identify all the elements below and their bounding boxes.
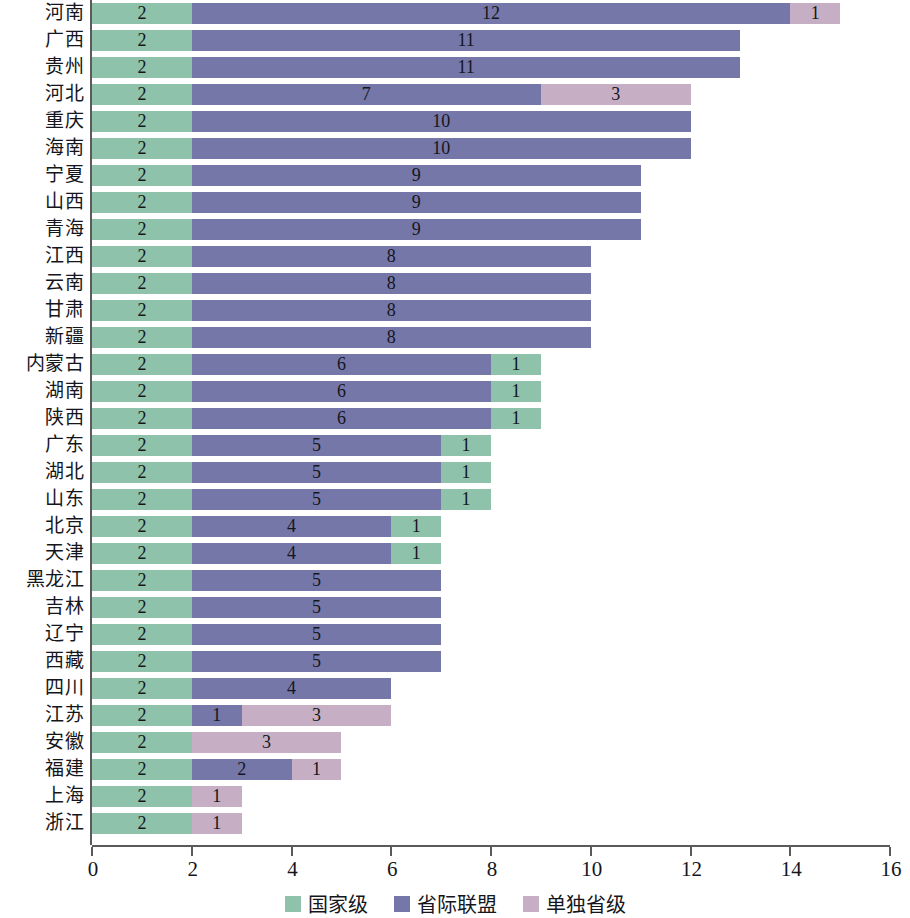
stacked-bar-chart: 河南2121广西211贵州211河北273重庆210海南210宁夏29山西29青… [0, 0, 910, 918]
x-axis-tick [789, 847, 791, 856]
x-axis-tick [191, 847, 193, 856]
bar-row: 云南28 [0, 270, 910, 297]
bar-segment: 1 [491, 354, 541, 375]
stacked-bar: 28 [92, 273, 591, 294]
bar-segment-value: 1 [412, 516, 421, 536]
legend-item[interactable]: 国家级 [285, 889, 368, 918]
x-axis-tick-label: 16 [871, 857, 910, 882]
bar-row: 黑龙江25 [0, 567, 910, 594]
bar-row: 广西211 [0, 27, 910, 54]
bar-segment-value: 2 [137, 300, 146, 320]
bar-segment: 8 [192, 327, 591, 348]
bar-segment-value: 11 [457, 57, 474, 77]
bar-segment-value: 2 [237, 759, 246, 779]
bar-segment: 8 [192, 273, 591, 294]
bar-segment-value: 1 [212, 705, 221, 725]
stacked-bar: 25 [92, 624, 441, 645]
bar-segment: 2 [92, 516, 192, 537]
bar-row-label: 黑龙江 [2, 567, 86, 594]
bar-segment: 2 [92, 651, 192, 672]
bar-segment: 5 [192, 570, 441, 591]
x-axis-tick-label: 6 [372, 857, 412, 882]
stacked-bar: 211 [92, 57, 740, 78]
bar-row-label: 安徽 [2, 729, 86, 756]
stacked-bar: 251 [92, 462, 491, 483]
x-axis-tick-label: 2 [173, 857, 213, 882]
stacked-bar: 211 [92, 30, 740, 51]
bar-segment: 2 [92, 597, 192, 618]
bar-segment-value: 2 [137, 462, 146, 482]
bar-segment: 4 [192, 543, 392, 564]
stacked-bar: 261 [92, 354, 541, 375]
bar-row: 吉林25 [0, 594, 910, 621]
bar-row-label: 青海 [2, 216, 86, 243]
bar-segment-value: 6 [337, 354, 346, 374]
bar-segment: 9 [192, 192, 641, 213]
bar-segment-value: 1 [212, 786, 221, 806]
stacked-bar: 29 [92, 192, 641, 213]
bar-segment: 2 [92, 3, 192, 24]
stacked-bar: 24 [92, 678, 391, 699]
bar-segment: 7 [192, 84, 541, 105]
bar-segment: 12 [192, 3, 791, 24]
x-axis-tick-label: 4 [273, 857, 313, 882]
bar-segment-value: 5 [312, 597, 321, 617]
bar-segment-value: 2 [137, 651, 146, 671]
bar-segment-value: 8 [387, 273, 396, 293]
stacked-bar: 25 [92, 597, 441, 618]
bar-segment: 2 [92, 57, 192, 78]
bar-segment: 1 [441, 462, 491, 483]
bar-segment: 2 [92, 300, 192, 321]
bar-segment: 10 [192, 111, 691, 132]
bar-segment: 2 [92, 111, 192, 132]
bar-segment-value: 5 [312, 570, 321, 590]
stacked-bar: 2121 [92, 3, 840, 24]
bar-segment: 5 [192, 435, 441, 456]
bar-row-label: 天津 [2, 540, 86, 567]
bar-segment-value: 1 [462, 489, 471, 509]
bar-segment-value: 2 [137, 30, 146, 50]
bar-segment: 6 [192, 381, 491, 402]
bar-segment-value: 2 [137, 219, 146, 239]
bar-row: 湖北251 [0, 459, 910, 486]
bar-row: 四川24 [0, 675, 910, 702]
stacked-bar: 273 [92, 84, 691, 105]
bar-row-label: 湖南 [2, 378, 86, 405]
legend-item[interactable]: 省际联盟 [394, 889, 497, 918]
stacked-bar: 25 [92, 651, 441, 672]
bar-segment: 2 [92, 543, 192, 564]
bar-segment-value: 2 [137, 678, 146, 698]
bar-segment-value: 1 [511, 408, 520, 428]
bar-segment-value: 1 [462, 462, 471, 482]
bar-row-label: 海南 [2, 135, 86, 162]
bar-row: 福建221 [0, 756, 910, 783]
bar-segment-value: 1 [212, 813, 221, 833]
bar-segment-value: 2 [137, 84, 146, 104]
bar-segment: 2 [92, 30, 192, 51]
bar-segment-value: 1 [412, 543, 421, 563]
stacked-bar: 251 [92, 489, 491, 510]
bar-segment-value: 9 [412, 165, 421, 185]
bar-segment: 8 [192, 300, 591, 321]
bar-segment: 2 [92, 165, 192, 186]
bar-row: 新疆28 [0, 324, 910, 351]
x-axis-tick [889, 847, 891, 856]
stacked-bar: 210 [92, 138, 691, 159]
bar-row: 上海21 [0, 783, 910, 810]
legend-item[interactable]: 单独省级 [523, 889, 626, 918]
bar-row: 江西28 [0, 243, 910, 270]
bar-segment: 2 [92, 489, 192, 510]
bar-row: 湖南261 [0, 378, 910, 405]
bar-segment: 2 [92, 219, 192, 240]
bar-segment-value: 7 [362, 84, 371, 104]
x-axis-tick-label: 0 [73, 857, 113, 882]
bar-segment: 5 [192, 651, 441, 672]
bar-segment-value: 8 [387, 300, 396, 320]
x-axis-tick [590, 847, 592, 856]
stacked-bar: 23 [92, 732, 341, 753]
bar-row: 山西29 [0, 189, 910, 216]
bar-segment: 5 [192, 597, 441, 618]
bar-segment-value: 2 [137, 246, 146, 266]
bar-segment: 6 [192, 408, 491, 429]
bar-segment: 2 [92, 273, 192, 294]
